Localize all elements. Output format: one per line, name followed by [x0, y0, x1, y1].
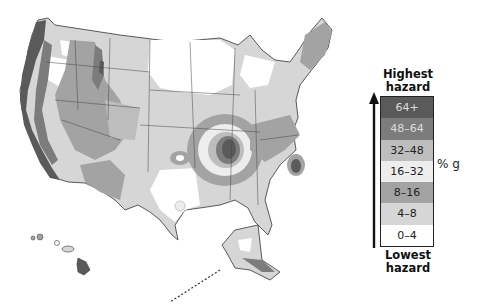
legend-scale: 64+ 48–64 32–48 16–32 8–16 4–8 0–4	[380, 96, 434, 247]
legend-lowest-label: Lowest hazard	[378, 249, 438, 275]
legend-band-0-4: 0–4	[381, 225, 433, 246]
legend-band-64plus: 64+	[381, 97, 433, 118]
legend-band-8-16: 8–16	[381, 182, 433, 203]
legend-band-48-64: 48–64	[381, 118, 433, 139]
legend-unit: % g	[437, 157, 460, 171]
legend-band-32-48: 32–48	[381, 140, 433, 161]
contiguous-us	[20, 18, 332, 240]
legend-band-4-8: 4–8	[381, 203, 433, 224]
legend-highest-label: Highest hazard	[378, 68, 438, 94]
alaska	[170, 225, 280, 302]
legend-highest-line2: hazard	[378, 81, 438, 94]
legend-band-16-32: 16–32	[381, 161, 433, 182]
hazard-arrow-icon	[369, 92, 379, 248]
us-seismic-hazard-map	[0, 0, 370, 304]
hawaii	[31, 234, 90, 275]
legend-lowest-line2: hazard	[378, 262, 438, 275]
